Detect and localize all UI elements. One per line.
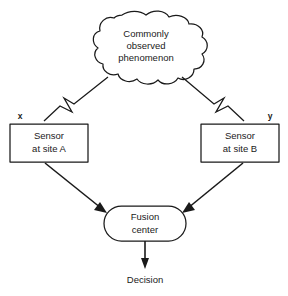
edge-fusion-center-to-decision <box>141 241 149 269</box>
decision-label: Decision <box>127 274 163 285</box>
sensor-a-label-line2: at site A <box>32 143 66 154</box>
sensor-a-label-line1: Sensor <box>34 130 64 141</box>
fusion-center-label-line2: center <box>132 224 158 235</box>
fusion-decision-arrowhead <box>141 258 149 269</box>
edge-phenomenon-to-sensor-a <box>44 77 108 121</box>
signal-label-x: x <box>18 111 23 121</box>
node-fusion-center: Fusion center <box>104 206 186 241</box>
cloud-label-line2: observed <box>126 40 165 51</box>
diagram-canvas: Commonly observed phenomenon Sensor at s… <box>0 0 288 296</box>
sensor-a-fusion-line <box>45 163 101 208</box>
lightning-bolt-right-icon <box>182 77 244 121</box>
sensor-b-label-line2: at site B <box>223 143 257 154</box>
edge-sensor-b-to-fusion-center <box>182 163 243 213</box>
cloud-label-line3: phenomenon <box>118 52 173 63</box>
lightning-bolt-left-icon <box>44 77 108 121</box>
node-sensor-a: Sensor at site A x <box>10 111 88 162</box>
sensor-b-label-line1: Sensor <box>225 130 255 141</box>
fusion-center-label-line1: Fusion <box>131 211 160 222</box>
node-sensor-b: Sensor at site B y <box>201 111 279 162</box>
node-phenomenon-cloud: Commonly observed phenomenon <box>93 11 207 84</box>
edge-sensor-a-to-fusion-center <box>45 163 107 213</box>
cloud-label-line1: Commonly <box>123 28 169 39</box>
sensor-b-fusion-line <box>188 163 243 208</box>
edge-phenomenon-to-sensor-b <box>182 77 244 121</box>
signal-label-y: y <box>268 111 273 121</box>
